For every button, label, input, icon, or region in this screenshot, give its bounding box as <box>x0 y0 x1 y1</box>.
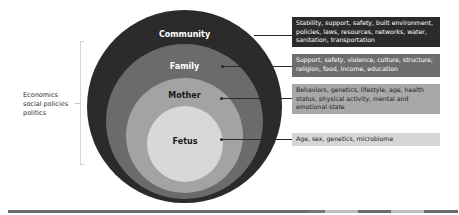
footer-bar-segment <box>424 210 458 213</box>
community-connector <box>254 35 292 36</box>
mother-connector <box>222 98 292 99</box>
fetus-label: Fetus <box>147 137 223 146</box>
bracket-tick <box>75 103 80 104</box>
footer-bar-segment <box>391 210 424 213</box>
footer-bar-segment <box>308 210 325 213</box>
fetus-connector <box>222 139 292 140</box>
side-label-line-politics: politics <box>23 109 68 118</box>
bracket <box>80 41 84 165</box>
family-connector <box>223 66 292 67</box>
footer-bar <box>8 210 458 213</box>
family-description-box: Support, safety, violence, culture, stru… <box>292 54 440 77</box>
side-label-line-social-policies: social policies <box>23 100 68 109</box>
fetus-circle: Fetus <box>147 106 223 182</box>
community-description-box: Stability, support, safety, built enviro… <box>292 17 440 47</box>
mother-description-box: Behaviors, genetics, lifestyle, age, hea… <box>292 84 440 114</box>
footer-bar-segment <box>358 210 391 213</box>
footer-bar-segment <box>8 210 308 213</box>
community-label: Community <box>87 30 282 39</box>
fetus-description-box: Age, sex, genetics, microbiome <box>292 133 440 146</box>
footer-bar-segment <box>325 210 358 213</box>
side-label-line-economics: Economics <box>23 91 68 100</box>
side-label: Economics social policies politics <box>23 91 68 118</box>
